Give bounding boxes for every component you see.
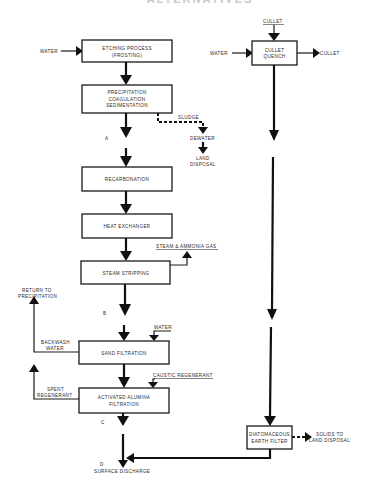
land-disposal-label-2: DISPOSAL [190, 162, 216, 167]
water-sand-label: WATER [154, 325, 172, 330]
arrow-down-icon [118, 332, 130, 341]
water-input-label: WATER [40, 49, 58, 54]
box-cullet-quench: CULLET QUENCH [252, 41, 297, 65]
svg-text:STEAM STRIPPING: STEAM STRIPPING [102, 271, 149, 276]
caustic-label: CAUSTIC REGENERANT [153, 373, 213, 378]
svg-text:FILTRATION: FILTRATION [109, 402, 139, 407]
box-etching-process: ETCHING PROCESS (FROSTING) [82, 40, 172, 62]
svg-text:RECARBONATION: RECARBONATION [105, 177, 149, 182]
solids-label-2: LAND DISPOSAL [309, 438, 350, 443]
point-d-label: D [100, 462, 104, 467]
svg-text:(FROSTING): (FROSTING) [112, 53, 142, 58]
point-b-label: B [103, 311, 106, 316]
cullet-out-label: CULLET [320, 51, 340, 56]
arrow-down-icon [120, 156, 132, 167]
backwash-label-2: WATER [46, 346, 64, 351]
svg-text:QUENCH: QUENCH [263, 54, 285, 59]
spent-label-2: REGENERANT [37, 393, 72, 398]
arrow-down-icon [120, 204, 132, 214]
arrow-down-icon [264, 416, 276, 426]
arrow-down-icon [117, 416, 129, 426]
svg-text:DIATOMACEOUS: DIATOMACEOUS [249, 432, 290, 437]
arrow-down-icon [148, 382, 158, 388]
box-recarbonation: RECARBONATION [82, 167, 172, 191]
svg-text:SEDIMENTATION: SEDIMENTATION [106, 103, 148, 108]
surface-discharge-label: SURFACE DISCHARGE [94, 469, 150, 474]
steam-ammonia-line [170, 258, 187, 265]
arrow-down-icon [120, 251, 132, 261]
flow-line [270, 327, 271, 416]
process-flow-diagram: ALTERNATIVES WATER ETCHING PROCESS (FROS… [0, 0, 370, 493]
land-disposal-label-1: LAND [196, 156, 210, 161]
arrow-down-icon [198, 147, 208, 154]
arrow-down-icon [118, 460, 128, 468]
box-precipitation: PRECIPITATION COAGULATION SEDIMENTATION [82, 85, 172, 113]
arrow-down-icon [149, 335, 159, 341]
svg-text:ETCHING PROCESS: ETCHING PROCESS [102, 46, 152, 51]
arrow-right-icon [313, 48, 320, 58]
arrow-left-icon [126, 453, 134, 463]
svg-text:ACTIVATED ALUMINA: ACTIVATED ALUMINA [98, 395, 151, 400]
svg-text:COAGULATION: COAGULATION [109, 97, 146, 102]
return-label-2: PRECIPITATION [18, 294, 57, 299]
arrow-down-icon [268, 33, 280, 41]
box-heat-exchanger: HEAT EXCHANGER [82, 214, 172, 238]
backwash-label-1: BACKWASH [41, 340, 70, 345]
point-a-label: A [105, 136, 109, 141]
arrow-up-icon [182, 251, 192, 258]
arrow-down-icon [269, 130, 279, 141]
spent-label-1: SPENT [47, 387, 64, 392]
diagram-title: ALTERNATIVES [147, 0, 254, 5]
sludge-label: SLUDGE [178, 115, 199, 120]
return-line [133, 449, 270, 458]
caustic-line [153, 379, 155, 382]
arrow-down-icon [198, 127, 208, 134]
box-sand-filtration: SAND FILTRATION [79, 341, 169, 364]
water-cullet-label: WATER [210, 51, 228, 56]
svg-text:EARTH FILTER: EARTH FILTER [251, 439, 288, 444]
point-c-label: C [101, 420, 105, 425]
svg-text:HEAT EXCHANGER: HEAT EXCHANGER [103, 224, 150, 229]
return-label-1: RETURN TO [22, 288, 52, 293]
water-sand-line [154, 331, 171, 335]
box-diatomaceous-earth-filter: DIATOMACEOUS EARTH FILTER [247, 426, 292, 449]
arrow-up-icon [29, 364, 39, 372]
svg-text:CULLET: CULLET [265, 48, 285, 53]
flow-line [272, 157, 273, 310]
box-activated-alumina: ACTIVATED ALUMINA FILTRATION [79, 388, 169, 413]
svg-text:PRECIPITATION: PRECIPITATION [107, 90, 146, 95]
box-steam-stripping: STEAM STRIPPING [81, 261, 170, 284]
arrow-down-icon [267, 309, 277, 320]
arrow-down-icon [120, 127, 132, 138]
arrow-down-icon [120, 75, 132, 85]
cullet-in-label: CULLET [263, 19, 283, 24]
arrow-down-icon [119, 304, 131, 316]
steam-ammonia-label: STEAM & AMMONIA GAS [156, 244, 217, 249]
dewater-label: DEWATER [190, 136, 215, 141]
solids-label-1: SOLIDS TO [316, 432, 344, 437]
svg-text:SAND FILTRATION: SAND FILTRATION [101, 351, 146, 356]
arrow-down-icon [118, 377, 130, 388]
